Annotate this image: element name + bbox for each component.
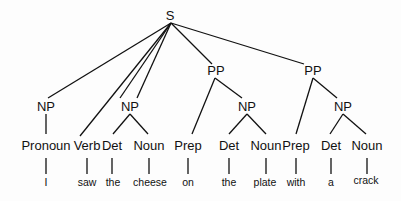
word: a bbox=[328, 176, 334, 188]
pos-prep: Prep bbox=[282, 138, 309, 153]
pos-det: Det bbox=[321, 138, 342, 153]
pos-pronoun: Pronoun bbox=[21, 138, 70, 153]
pos-verb: Verb bbox=[74, 138, 101, 153]
pos-noun: Noun bbox=[133, 138, 164, 153]
node-np-pp1: NP bbox=[238, 99, 256, 114]
node-pp-1: PP bbox=[207, 63, 224, 78]
node-pp-2: PP bbox=[304, 63, 321, 78]
node-np-pp2: NP bbox=[334, 99, 352, 114]
node-np-object: NP bbox=[121, 99, 139, 114]
node-s: S bbox=[166, 8, 175, 23]
word: the bbox=[106, 176, 121, 188]
word: I bbox=[45, 176, 48, 188]
parse-tree-diagram: S NP NP PP PP NP NP Pronoun Verb Det Nou… bbox=[0, 0, 401, 201]
pos-noun: Noun bbox=[250, 138, 281, 153]
pos-det: Det bbox=[102, 138, 123, 153]
word: plate bbox=[254, 176, 277, 188]
word: with bbox=[286, 176, 306, 188]
word: crack bbox=[353, 174, 379, 186]
word: cheese bbox=[133, 176, 167, 188]
word: the bbox=[222, 176, 237, 188]
node-np-subject: NP bbox=[37, 99, 55, 114]
word: on bbox=[182, 176, 194, 188]
word: saw bbox=[78, 176, 97, 188]
pos-noun: Noun bbox=[351, 138, 382, 153]
pos-det: Det bbox=[219, 138, 240, 153]
tree-canvas: S NP NP PP PP NP NP Pronoun Verb Det Nou… bbox=[0, 0, 401, 201]
pos-prep: Prep bbox=[174, 138, 201, 153]
